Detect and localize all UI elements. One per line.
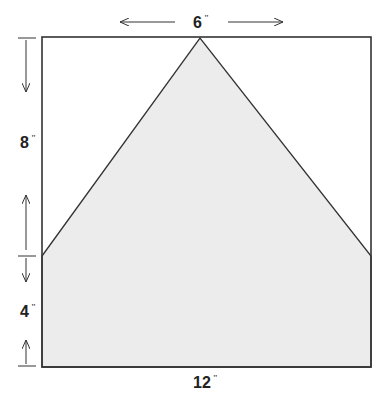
bottom-dimension-label: 12"	[193, 373, 218, 391]
upper-side-dimension-label: 8"	[20, 133, 36, 151]
shaded-pentagon	[42, 38, 371, 367]
top-dimension-label: 6"	[193, 13, 209, 31]
diagram-canvas: 6" 8" 4" 12"	[0, 0, 390, 397]
lower-side-dimension-label: 4"	[20, 302, 36, 320]
